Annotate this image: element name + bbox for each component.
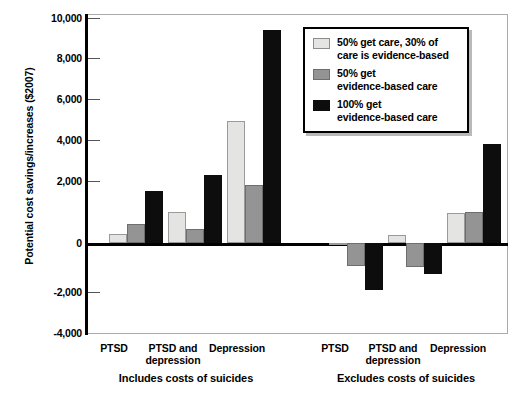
- x-cat-1-l1: PTSD and: [149, 342, 198, 354]
- x-group-label-includes: Includes costs of suicides: [96, 372, 276, 384]
- x-cat-1-l2: depression: [145, 354, 200, 366]
- bar-4-series-1: [406, 243, 424, 267]
- legend-label-1-line2: evidence-based care: [337, 80, 437, 92]
- bar-2-series-2: [263, 30, 281, 243]
- legend-label-2-line1: 100% get: [337, 98, 381, 110]
- bar-0-series-0: [109, 234, 127, 243]
- legend-label-2-line2: evidence-based care: [337, 111, 437, 123]
- x-cat-3-l1: PTSD: [321, 342, 349, 354]
- y-tick-label-6000: 6,000: [24, 94, 82, 104]
- bar-0-series-1: [127, 224, 145, 243]
- legend-label-0-line2: care is evidence-based: [337, 49, 449, 61]
- x-cat-4-l2: depression: [365, 354, 420, 366]
- y-tick-label-10000: 10,000: [24, 13, 82, 23]
- x-category-label-5: Depression: [419, 342, 497, 354]
- x-cat-4-l1: PTSD and: [369, 342, 418, 354]
- legend-label-1: 50% get evidence-based care: [337, 67, 437, 92]
- y-tick-label-2000: 2,000: [24, 176, 82, 186]
- bar-3-series-2: [365, 243, 383, 290]
- bar-5-series-1: [465, 212, 483, 243]
- bar-2-series-0: [227, 121, 245, 243]
- y-axis-title: Potential cost savings/increases ($2007): [23, 41, 35, 291]
- bar-0-series-2: [145, 191, 163, 243]
- bar-3-series-0: [329, 243, 347, 245]
- y-tick-label-neg2000: -2,000: [24, 287, 82, 297]
- legend-item-2[interactable]: 100% get evidence-based care: [313, 98, 459, 123]
- bar-1-series-2: [204, 175, 222, 243]
- legend-label-2: 100% get evidence-based care: [337, 98, 437, 123]
- legend-label-1-line1: 50% get: [337, 67, 376, 79]
- legend-item-0[interactable]: 50% get care, 30% of care is evidence-ba…: [313, 36, 459, 61]
- x-cat-5-l1: Depression: [430, 342, 486, 354]
- medium-gray-swatch-icon: [313, 69, 330, 80]
- legend-item-1[interactable]: 50% get evidence-based care: [313, 67, 459, 92]
- x-cat-0-l1: PTSD: [100, 342, 128, 354]
- x-group-label-excludes: Excludes costs of suicides: [316, 372, 496, 384]
- bar-1-series-0: [168, 212, 186, 243]
- light-gray-swatch-icon: [313, 38, 330, 49]
- bar-5-series-0: [447, 213, 465, 243]
- legend-label-0-line1: 50% get care, 30% of: [337, 36, 438, 48]
- bar-4-series-2: [424, 243, 442, 274]
- y-tick-label-neg4000: -4,000: [24, 328, 82, 338]
- y-tick-label-8000: 8,000: [24, 53, 82, 63]
- bar-5-series-2: [483, 144, 501, 243]
- legend: 50% get care, 30% of care is evidence-ba…: [303, 27, 469, 133]
- black-swatch-icon: [313, 100, 330, 111]
- y-tick-label-4000: 4,000: [24, 135, 82, 145]
- legend-label-0: 50% get care, 30% of care is evidence-ba…: [337, 36, 449, 61]
- bar-2-series-1: [245, 185, 263, 243]
- bar-1-series-1: [186, 229, 204, 243]
- x-cat-2-l1: Depression: [209, 342, 265, 354]
- x-category-label-2: Depression: [198, 342, 276, 354]
- y-tick-label-0: 0: [24, 238, 82, 248]
- bar-4-series-0: [388, 235, 406, 243]
- bar-chart: Potential cost savings/increases ($2007)…: [0, 0, 521, 396]
- bar-3-series-1: [347, 243, 365, 266]
